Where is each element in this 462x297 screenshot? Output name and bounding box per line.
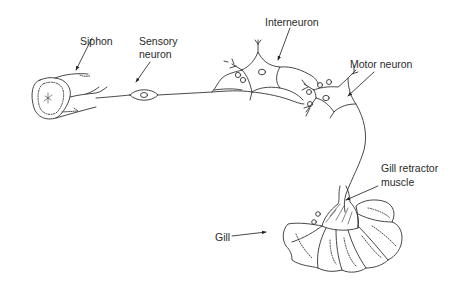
gill-shape (283, 200, 402, 272)
interneuron-label: Interneuron (265, 16, 319, 28)
sensory-neuron-body (130, 90, 158, 101)
motor-neuron-shape (302, 66, 366, 212)
diagram-drawing (0, 0, 462, 297)
sensory-axon-main (158, 91, 252, 95)
sensory-neuron-arrow (136, 62, 150, 82)
gill-arrow (232, 232, 266, 236)
siphon-shape (32, 74, 107, 119)
sensory-neuron-nucleus (141, 93, 148, 98)
motor-neuron-arrow (348, 72, 374, 96)
motor-neuron-label: Motor neuron (350, 58, 412, 70)
sensory-neuron-label-line2: neuron (139, 48, 172, 60)
interneuron-arrow (278, 28, 290, 60)
gill-retractor-muscle-shape (312, 186, 359, 230)
siphon-label: Siphon (80, 35, 113, 47)
neural-circuit-diagram: Siphon Sensory neuron Interneuron Motor … (0, 0, 462, 297)
gill-label: Gill (215, 231, 230, 243)
gill-retractor-muscle-label-line1: Gill retractor (381, 162, 438, 174)
sensory-axon (96, 95, 130, 98)
gill-retractor-muscle-label-line2: muscle (381, 176, 414, 188)
sensory-neuron-label-line1: Sensory (139, 35, 178, 47)
gill-retractor-arrow (346, 186, 378, 200)
